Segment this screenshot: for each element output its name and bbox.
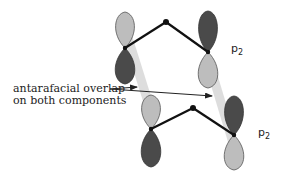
orbital-label-top: p2 (231, 42, 243, 57)
orbital-label-top-subscript: 2 (238, 48, 243, 57)
orbital-label-bottom-base: p (258, 126, 265, 139)
orbital-label-bottom-subscript: 2 (265, 132, 270, 141)
atom-dot-bottom-center (190, 105, 196, 111)
annotation-label: antarafacial overlap on both components (13, 83, 127, 107)
orbital-label-bottom: p2 (258, 126, 270, 141)
atom-dot-top-right (206, 50, 210, 54)
atom-dot-bottom-left (149, 127, 153, 131)
atom-dot-top-center (163, 19, 169, 25)
orbital-label-top-base: p (231, 42, 238, 55)
p-orbital-top-right (198, 11, 218, 88)
annotation-line-2: on both components (13, 95, 127, 107)
atom-dot-bottom-right (232, 133, 236, 137)
atom-dot-top-left (123, 46, 127, 50)
